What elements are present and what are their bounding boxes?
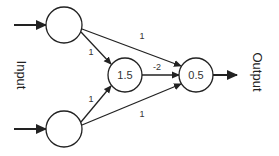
- weight-in1-out: 1: [139, 31, 144, 41]
- input-node-2: [46, 111, 82, 147]
- edge-in2-hidden: [81, 86, 111, 122]
- weight-hidden-out: -2: [153, 62, 161, 72]
- output-label: Output: [250, 52, 265, 91]
- input-node-1: [46, 7, 82, 43]
- weight-in2-hidden: 1: [88, 94, 93, 104]
- weight-in1-hidden: 1: [88, 47, 93, 57]
- neural-network-diagram: 1.5 0.5 1 1 1 1 -2 Input Output: [0, 0, 279, 156]
- output-node-label: 0.5: [188, 69, 203, 81]
- hidden-node-label: 1.5: [117, 69, 132, 81]
- weight-in2-out: 1: [139, 109, 144, 119]
- edge-in1-hidden: [81, 32, 111, 64]
- input-label: Input: [14, 61, 29, 90]
